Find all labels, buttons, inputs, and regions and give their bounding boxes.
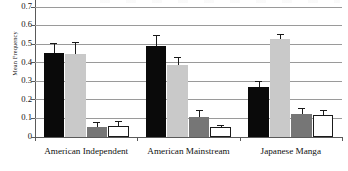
bar — [270, 39, 291, 137]
error-bar-cap — [153, 35, 160, 36]
error-bar-cap — [255, 81, 262, 82]
bar — [65, 54, 86, 137]
x-axis-line — [35, 137, 342, 138]
x-axis-tick-mark — [137, 137, 138, 142]
error-bar-stem — [54, 43, 55, 53]
y-axis-tick-mark — [31, 81, 35, 82]
y-axis-tick-mark — [31, 44, 35, 45]
plot-area — [35, 7, 342, 137]
error-bar-stem — [178, 57, 179, 65]
y-axis-tick-label: 0.3 — [6, 76, 32, 85]
bar — [313, 115, 334, 136]
y-axis-tick-label: 0.6 — [6, 20, 32, 29]
error-bar-cap — [277, 34, 284, 35]
error-bar-cap — [217, 125, 224, 126]
error-bar-cap — [50, 43, 57, 44]
bar — [189, 117, 210, 137]
bar — [210, 127, 231, 136]
error-bar-stem — [156, 35, 157, 46]
error-bar-stem — [199, 110, 200, 117]
error-bar-cap — [298, 108, 305, 109]
x-axis-tick-mark — [240, 137, 241, 142]
error-bar-cap — [174, 57, 181, 58]
bar-group — [35, 7, 137, 137]
y-axis-tick-mark — [31, 99, 35, 100]
bar — [291, 114, 312, 136]
y-axis-tick-label: 0 — [6, 132, 32, 141]
bar — [44, 53, 65, 137]
x-axis-category-label: American Mainstream — [137, 146, 239, 156]
bar — [87, 127, 108, 136]
y-axis-tick-mark — [31, 62, 35, 63]
x-axis-category-label: American Independent — [35, 146, 137, 156]
x-axis-tick-mark — [35, 137, 36, 142]
error-bar-cap — [115, 121, 122, 122]
y-axis-tick-mark — [31, 25, 35, 26]
error-bar-cap — [320, 110, 327, 111]
bar — [248, 87, 269, 136]
bar-group — [240, 7, 342, 137]
y-axis-tick-labels: 0.70.60.50.40.30.20.10 — [4, 0, 32, 171]
y-axis-tick-label: 0.1 — [6, 113, 32, 122]
y-axis-tick-label: 0.2 — [6, 95, 32, 104]
error-bar-stem — [75, 42, 76, 54]
error-bar-cap — [72, 42, 79, 43]
x-axis-tick-mark — [342, 137, 343, 142]
bar — [146, 46, 167, 136]
bar-chart: Mean Frequency 0.70.60.50.40.30.20.10 Am… — [0, 0, 348, 171]
error-bar-cap — [196, 110, 203, 111]
y-axis-tick-label: 0.5 — [6, 39, 32, 48]
bar — [167, 65, 188, 137]
bar — [108, 126, 129, 136]
y-axis-tick-label: 0.7 — [6, 2, 32, 11]
bar-group — [137, 7, 239, 137]
y-axis-tick-mark — [31, 118, 35, 119]
y-axis-tick-label: 0.4 — [6, 58, 32, 67]
clipped-top-content — [100, 0, 340, 3]
x-axis-category-label: Japanese Manga — [240, 146, 342, 156]
error-bar-cap — [93, 122, 100, 123]
y-axis-tick-mark — [31, 7, 35, 8]
